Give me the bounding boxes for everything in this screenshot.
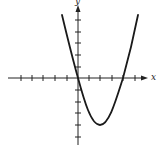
x-axis-label: x: [151, 73, 156, 82]
y-axis-label: y: [75, 0, 80, 6]
parabola-chart: [0, 0, 159, 147]
y-axis-arrow-icon: [76, 5, 81, 12]
x-axis-arrow-icon: [141, 76, 148, 81]
parabola-curve: [62, 15, 138, 125]
